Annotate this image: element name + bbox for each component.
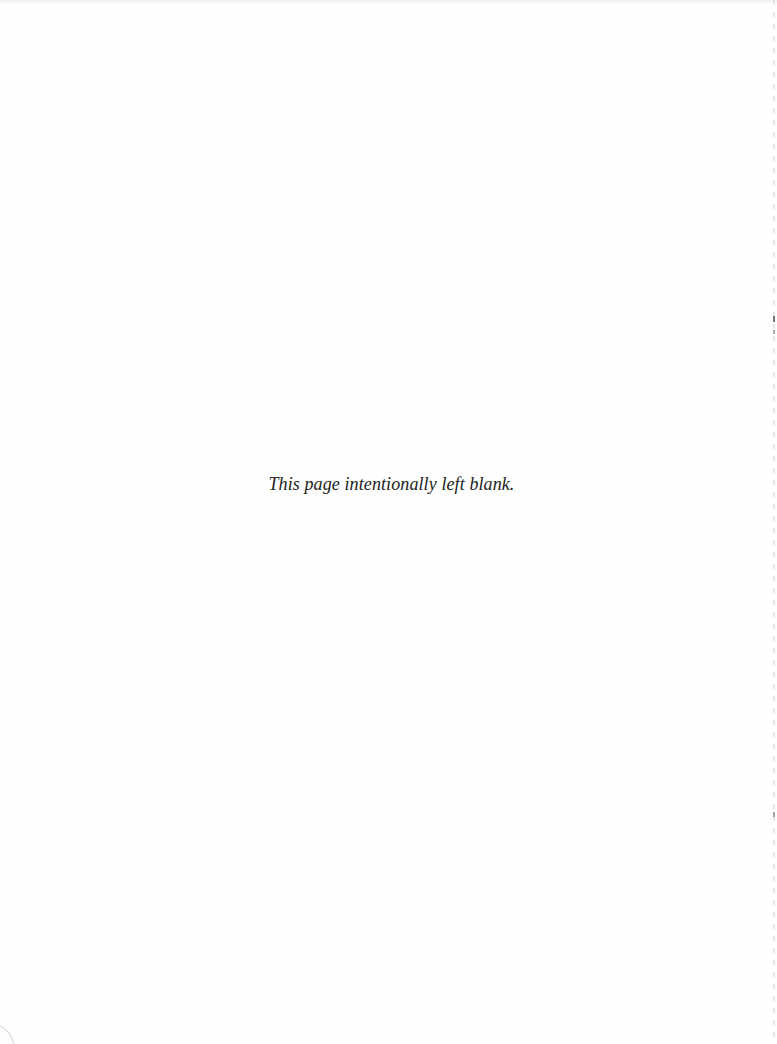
binding-mark — [773, 812, 775, 817]
binding-mark — [773, 316, 775, 322]
blank-page-notice: This page intentionally left blank. — [0, 474, 777, 495]
page-corner-curl-icon — [0, 1022, 22, 1044]
scan-top-shadow — [0, 0, 777, 4]
scan-binding-edge — [773, 0, 775, 1044]
document-page: This page intentionally left blank. — [0, 0, 777, 1044]
binding-mark — [773, 330, 775, 334]
